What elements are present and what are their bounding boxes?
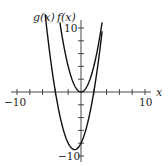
- curves: [45, 14, 102, 149]
- y-max-label: 10: [64, 22, 77, 34]
- x-max-label: 10: [139, 96, 152, 108]
- y-min-label: −10: [58, 150, 80, 162]
- x-min-label: −10: [4, 96, 26, 108]
- function-plot: g(x) f(x) 10 −10 −10 10 x: [0, 0, 168, 166]
- axes: [11, 20, 151, 162]
- x-axis-label: x: [156, 86, 163, 99]
- g-label: g(x): [33, 11, 55, 24]
